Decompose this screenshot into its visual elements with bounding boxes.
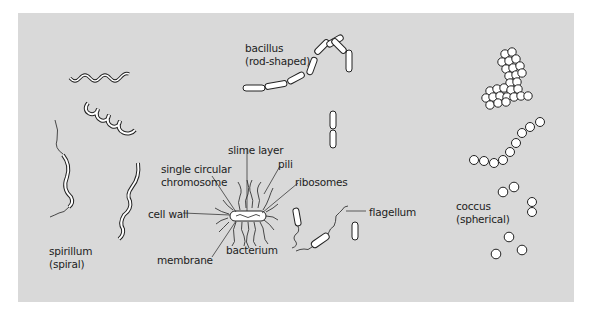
- label-coccus: coccus: [456, 200, 491, 212]
- spirillum-wavy-icon: [70, 74, 129, 82]
- label-spirillum: spirillum: [49, 245, 92, 257]
- label-bacterium: bacterium: [226, 244, 278, 256]
- label-bacillus-desc: (rod-shaped): [245, 55, 310, 67]
- label-cell-wall: cell wall: [148, 208, 188, 220]
- spirillum-long-icon: [50, 120, 72, 217]
- bacteria-illustration: [0, 0, 590, 318]
- label-ribosomes: ribosomes: [295, 176, 348, 188]
- label-pili: pili: [278, 158, 293, 170]
- spirillum-coil-icon: [86, 103, 135, 133]
- label-bacillus: bacillus: [245, 42, 283, 54]
- bacillus-pair-icon: [330, 111, 336, 148]
- label-spirillum-desc: (spiral): [49, 258, 84, 270]
- label-membrane: membrane: [157, 254, 213, 266]
- coccus-chain-icon: [470, 118, 545, 168]
- label-chromosome-1: single circular: [161, 163, 231, 175]
- label-flagellum: flagellum: [369, 206, 416, 218]
- spirillum-right-icon: [119, 163, 138, 239]
- label-chromosome-2: chromosome: [161, 176, 227, 188]
- flagellated-bacteria-icon: [292, 206, 366, 251]
- coccus-cluster-icon: [482, 48, 532, 109]
- label-coccus-desc: (spherical): [456, 213, 510, 225]
- label-slime-layer: slime layer: [228, 144, 283, 156]
